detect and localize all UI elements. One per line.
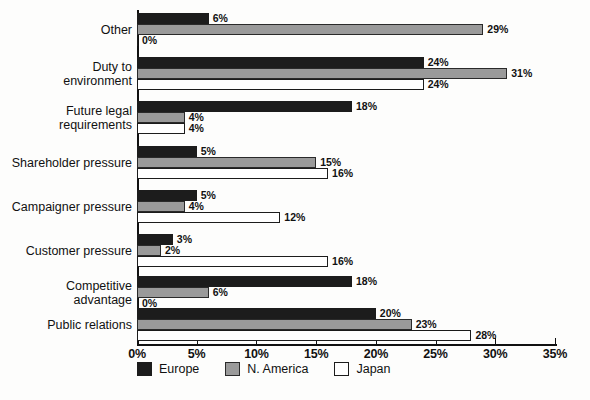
bar-value-label: 18%	[356, 275, 377, 287]
legend-item: N. America	[225, 362, 308, 376]
bar-europe	[137, 57, 424, 68]
bar-n-america	[137, 24, 483, 35]
legend-label: N. America	[247, 362, 308, 376]
category-label: Public relations	[0, 318, 132, 332]
legend-label: Japan	[356, 362, 390, 376]
bar-value-label: 0%	[142, 34, 157, 46]
bar-value-label: 31%	[511, 67, 532, 79]
category-label: Competitive advantage	[0, 279, 132, 307]
bar-japan	[137, 168, 328, 179]
category-label: Other	[0, 23, 132, 37]
bar-value-label: 23%	[416, 318, 437, 330]
white-square-icon	[334, 362, 349, 376]
bar-value-label: 4%	[189, 122, 204, 134]
bar-n-america	[137, 112, 185, 123]
x-tick-label: 25%	[423, 347, 447, 361]
bar-n-america	[137, 157, 316, 168]
category-label: Campaigner pressure	[0, 200, 132, 214]
bar-europe	[137, 276, 352, 287]
x-tick-label: 0%	[128, 347, 146, 361]
bar-europe	[137, 190, 197, 201]
x-tick-label: 10%	[244, 347, 268, 361]
category-label: Duty to environment	[0, 60, 132, 88]
x-tick-label: 15%	[304, 347, 328, 361]
bar-n-america	[137, 245, 161, 256]
bar-japan	[137, 35, 138, 46]
bar-value-label: 2%	[165, 244, 180, 256]
bar-value-label: 24%	[428, 78, 449, 90]
bar-value-label: 29%	[487, 23, 508, 35]
bar-value-label: 16%	[332, 255, 353, 267]
bar-europe	[137, 13, 209, 24]
category-label: Shareholder pressure	[0, 156, 132, 170]
bar-europe	[137, 101, 352, 112]
category-label: Customer pressure	[0, 244, 132, 258]
bar-value-label: 6%	[213, 12, 228, 24]
bar-value-label: 24%	[428, 56, 449, 68]
legend-label: Europe	[159, 362, 199, 376]
legend-item: Europe	[137, 362, 199, 376]
bar-value-label: 16%	[332, 167, 353, 179]
bar-value-label: 28%	[475, 329, 496, 341]
x-tick-label: 35%	[543, 347, 567, 361]
bar-value-label: 18%	[356, 100, 377, 112]
bar-japan	[137, 256, 328, 267]
bar-europe	[137, 308, 376, 319]
x-axis-line	[137, 344, 557, 346]
x-tick-label: 5%	[188, 347, 206, 361]
bar-japan	[137, 330, 471, 341]
bar-value-label: 5%	[201, 145, 216, 157]
bar-chart: 0%5%10%15%20%25%30%35% Other6%29%0%Duty …	[0, 0, 590, 400]
x-tick-label: 20%	[364, 347, 388, 361]
bar-value-label: 20%	[380, 307, 401, 319]
bar-n-america	[137, 201, 185, 212]
bar-n-america	[137, 68, 507, 79]
bar-japan	[137, 123, 185, 134]
chart-legend: EuropeN. AmericaJapan	[137, 362, 391, 376]
black-square-icon	[137, 362, 152, 376]
x-tick-mark	[555, 338, 556, 345]
legend-item: Japan	[334, 362, 390, 376]
bar-value-label: 4%	[189, 200, 204, 212]
gray-square-icon	[225, 362, 240, 376]
x-tick-label: 30%	[483, 347, 507, 361]
bar-europe	[137, 146, 197, 157]
bar-n-america	[137, 319, 412, 330]
category-label: Future legal requirements	[0, 104, 132, 132]
bar-japan	[137, 212, 280, 223]
bar-value-label: 6%	[213, 286, 228, 298]
bar-value-label: 12%	[284, 211, 305, 223]
bar-japan	[137, 79, 424, 90]
